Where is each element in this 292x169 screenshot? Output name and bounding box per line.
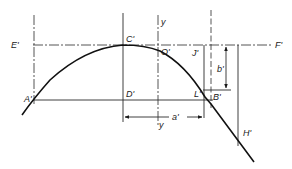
label-j: J'	[191, 48, 199, 58]
label-h: H'	[243, 128, 251, 138]
diagram-canvas: E' F' C' O' J' y A' D' L' B' H' y a' b'	[0, 0, 292, 169]
label-y-top: y	[160, 17, 166, 27]
label-o: O'	[161, 47, 170, 57]
label-e: E'	[11, 40, 19, 50]
label-d: D'	[126, 89, 134, 99]
label-a-point: A'	[23, 94, 32, 104]
label-a-dimension: a'	[172, 112, 179, 122]
label-f: F'	[275, 40, 282, 50]
label-y-bottom: y	[158, 120, 164, 130]
label-c: C'	[126, 34, 134, 44]
label-b-dimension: b'	[217, 64, 224, 74]
label-l: L'	[194, 89, 201, 99]
parabola-curve	[22, 45, 254, 162]
label-b-point: B'	[213, 92, 221, 102]
